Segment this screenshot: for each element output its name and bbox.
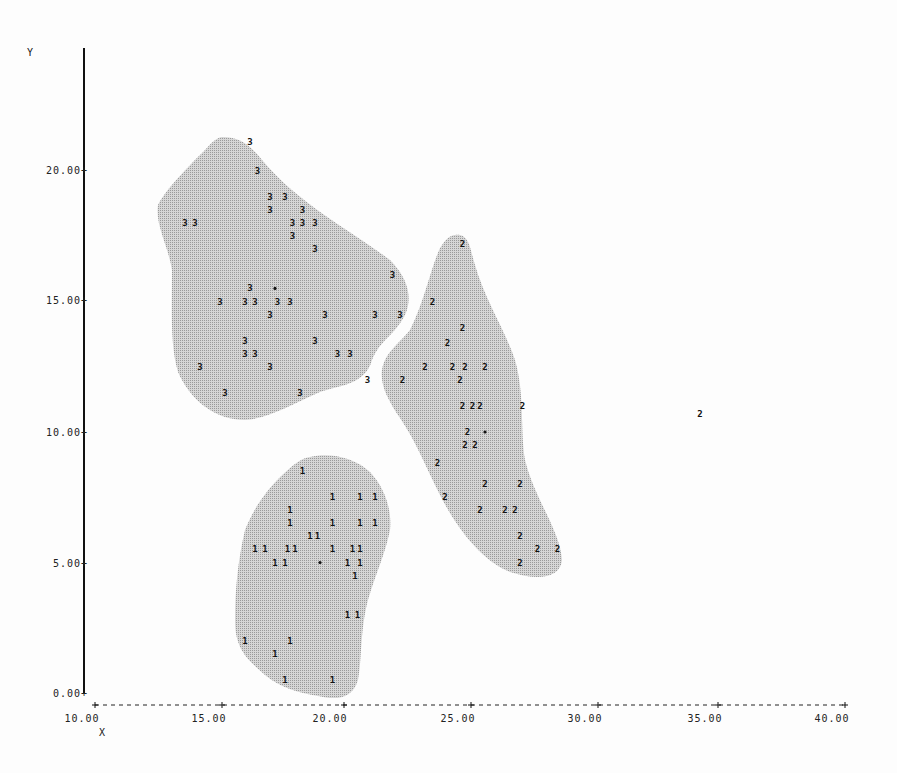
- data-point-cluster-3: 3: [397, 310, 402, 320]
- centroid-marker-cluster-3: [273, 287, 276, 290]
- data-point-cluster-1: 1: [287, 636, 292, 646]
- data-point-cluster-1: 1: [372, 518, 377, 528]
- data-point-cluster-3: 3: [347, 349, 352, 359]
- data-point-cluster-3: 3: [300, 205, 305, 215]
- x-tick-10: 10.00: [64, 713, 99, 724]
- data-point-cluster-3: 3: [312, 218, 317, 228]
- data-point-cluster-2: 2: [462, 440, 467, 450]
- data-point-cluster-1: 1: [315, 531, 320, 541]
- data-point-cluster-2: 2: [442, 492, 447, 502]
- data-point-cluster-2: 2: [465, 427, 470, 437]
- data-point-cluster-2: 2: [460, 239, 465, 249]
- y-axis-title: Y: [27, 47, 33, 58]
- data-point-cluster-3: 3: [365, 375, 370, 385]
- data-point-cluster-3: 3: [267, 205, 272, 215]
- data-point-cluster-2: 2: [430, 297, 435, 307]
- data-point-cluster-2: 2: [457, 375, 462, 385]
- data-point-cluster-1: 1: [372, 492, 377, 502]
- x-axis-title: X: [99, 727, 105, 738]
- data-point-cluster-2: 2: [462, 362, 467, 372]
- scatter-plot: 0.00+ 5.00+ 10.00+ 15.00+ 20.00+ 10.00 1…: [0, 0, 897, 773]
- data-point-cluster-3: 3: [192, 218, 197, 228]
- data-point-cluster-3: 3: [247, 137, 252, 147]
- y-tick-15: 15.00+: [46, 295, 88, 306]
- data-point-cluster-1: 1: [350, 544, 355, 554]
- data-point-cluster-3: 3: [182, 218, 187, 228]
- x-tick-25: 25.00: [440, 713, 475, 724]
- y-tick-10: 10.00+: [46, 427, 88, 438]
- x-tick-labels: 10.00 15.00 20.00 25.00 30.00 35.00 40.0…: [64, 713, 849, 724]
- data-point-cluster-2: 2: [470, 401, 475, 411]
- data-point-cluster-2: 2: [460, 401, 465, 411]
- data-point-cluster-3: 3: [267, 362, 272, 372]
- data-point-cluster-1: 1: [300, 466, 305, 476]
- y-tick-labels: 0.00+ 5.00+ 10.00+ 15.00+ 20.00+: [46, 165, 88, 699]
- data-point-cluster-2: 2: [472, 440, 477, 450]
- data-point-cluster-1: 1: [262, 544, 267, 554]
- centroid-marker-cluster-1: [318, 561, 321, 564]
- data-point-cluster-1: 1: [292, 544, 297, 554]
- data-point-cluster-2: 2: [517, 558, 522, 568]
- data-point-cluster-2: 2: [450, 362, 455, 372]
- data-point-cluster-3: 3: [252, 297, 257, 307]
- data-point-cluster-2: 2: [555, 544, 560, 554]
- data-point-cluster-3: 3: [290, 231, 295, 241]
- data-point-cluster-2: 2: [400, 375, 405, 385]
- data-point-cluster-3: 3: [390, 270, 395, 280]
- data-point-cluster-3: 3: [255, 166, 260, 176]
- data-point-cluster-1: 1: [357, 492, 362, 502]
- data-point-cluster-1: 1: [330, 544, 335, 554]
- data-point-cluster-3: 3: [242, 297, 247, 307]
- data-point-cluster-1: 1: [287, 505, 292, 515]
- data-point-cluster-2: 2: [460, 323, 465, 333]
- data-point-cluster-1: 1: [282, 558, 287, 568]
- x-tick-marks: [92, 702, 848, 708]
- data-point-cluster-1: 1: [357, 544, 362, 554]
- data-point-cluster-3: 3: [242, 349, 247, 359]
- y-tick-5: 5.00+: [53, 558, 88, 569]
- data-point-cluster-3: 3: [267, 310, 272, 320]
- data-point-cluster-1: 1: [282, 675, 287, 685]
- data-point-cluster-2: 2: [445, 338, 450, 348]
- data-point-cluster-1: 1: [272, 649, 277, 659]
- data-point-cluster-2: 2: [535, 544, 540, 554]
- x-tick-40: 40.00: [814, 713, 849, 724]
- data-point-cluster-3: 3: [217, 297, 222, 307]
- data-point-cluster-3: 3: [242, 336, 247, 346]
- data-point-cluster-1: 1: [285, 544, 290, 554]
- data-point-cluster-3: 3: [275, 297, 280, 307]
- data-point-cluster-3: 3: [282, 192, 287, 202]
- data-point-cluster-3: 3: [222, 388, 227, 398]
- data-point-cluster-1: 1: [330, 492, 335, 502]
- data-point-cluster-1: 1: [272, 558, 277, 568]
- data-point-cluster-1: 1: [307, 531, 312, 541]
- data-point-cluster-1: 1: [355, 610, 360, 620]
- data-point-cluster-3: 3: [312, 336, 317, 346]
- data-point-cluster-3: 3: [252, 349, 257, 359]
- data-point-cluster-1: 1: [242, 636, 247, 646]
- data-point-cluster-3: 3: [267, 192, 272, 202]
- data-point-cluster-1: 1: [345, 558, 350, 568]
- data-point-cluster-2: 2: [482, 362, 487, 372]
- data-point-cluster-2: 2: [520, 401, 525, 411]
- data-point-cluster-1: 1: [357, 558, 362, 568]
- centroid-marker-cluster-2: [483, 430, 486, 433]
- data-point-cluster-3: 3: [372, 310, 377, 320]
- data-point-cluster-2: 2: [512, 505, 517, 515]
- x-tick-15: 15.00: [191, 713, 226, 724]
- data-point-cluster-2: 2: [697, 409, 702, 419]
- data-point-cluster-2: 2: [517, 531, 522, 541]
- data-point-cluster-3: 3: [312, 244, 317, 254]
- data-point-cluster-2: 2: [422, 362, 427, 372]
- data-point-cluster-3: 3: [335, 349, 340, 359]
- data-point-cluster-2: 2: [477, 505, 482, 515]
- data-point-cluster-1: 1: [252, 544, 257, 554]
- data-point-cluster-3: 3: [287, 297, 292, 307]
- data-point-cluster-1: 1: [330, 675, 335, 685]
- x-tick-35: 35.00: [687, 713, 722, 724]
- data-point-cluster-2: 2: [435, 458, 440, 468]
- data-point-cluster-3: 3: [247, 283, 252, 293]
- data-point-cluster-1: 1: [357, 518, 362, 528]
- data-point-cluster-1: 1: [352, 571, 357, 581]
- data-point-cluster-3: 3: [300, 218, 305, 228]
